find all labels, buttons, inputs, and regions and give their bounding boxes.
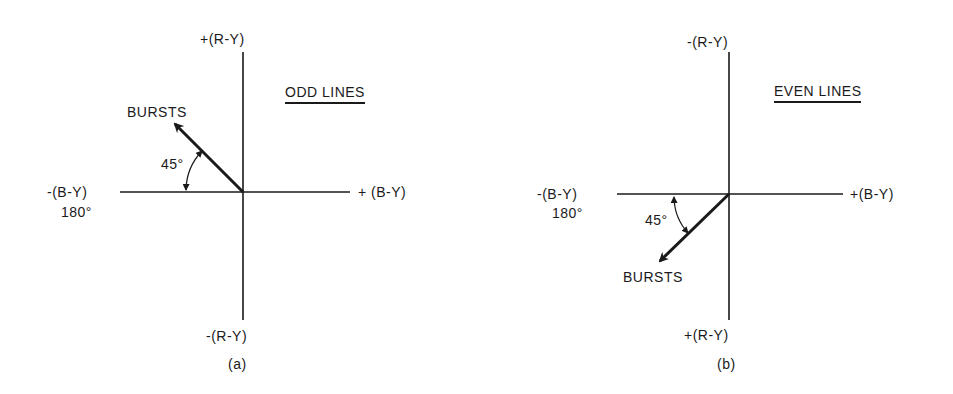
vector-label-a: BURSTS <box>127 104 187 120</box>
axis-bottom-label-b: +(R-Y) <box>684 327 729 343</box>
vector-label-b: BURSTS <box>623 269 683 285</box>
angle-label-b: 45° <box>645 212 668 228</box>
angle-arc-a <box>186 151 202 190</box>
axis-right-label-a: + (B-Y) <box>358 184 406 200</box>
angle-arc-b <box>674 197 688 233</box>
phasor-diagrams <box>0 0 953 394</box>
axis-left-label-b: -(B-Y) <box>537 186 577 202</box>
axis-top-label-b: -(R-Y) <box>687 34 728 50</box>
axis-top-label-a: +(R-Y) <box>200 31 245 47</box>
burst-vector-a <box>175 124 243 192</box>
burst-vector-b <box>660 194 729 261</box>
caption-b: (b) <box>717 356 736 372</box>
axis-right-label-b: +(B-Y) <box>850 186 894 202</box>
axis-bottom-label-a: -(R-Y) <box>206 328 247 344</box>
diagram-title-b: EVEN LINES <box>774 83 861 103</box>
angle-label-a: 45° <box>161 156 184 172</box>
diagram-title-a: ODD LINES <box>285 84 365 104</box>
caption-a: (a) <box>228 356 247 372</box>
axis-left-angle-b: 180° <box>552 205 583 221</box>
axis-left-label-a: -(B-Y) <box>47 184 87 200</box>
axis-left-angle-a: 180° <box>61 204 92 220</box>
